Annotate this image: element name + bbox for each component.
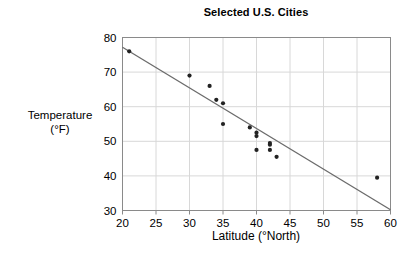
data-point	[268, 143, 272, 147]
y-tick-label: 40	[104, 170, 117, 182]
data-point	[127, 49, 131, 53]
data-points	[127, 49, 379, 179]
data-point	[254, 134, 258, 138]
x-tick-label: 25	[150, 217, 163, 229]
data-point	[254, 148, 258, 152]
data-point	[208, 84, 212, 88]
x-tick-label: 30	[183, 217, 196, 229]
y-tick-label: 60	[104, 101, 117, 113]
x-tick-label: 50	[317, 217, 330, 229]
x-tick-marks	[123, 211, 391, 215]
data-point	[187, 73, 191, 77]
y-tick-label: 30	[104, 205, 117, 217]
data-point	[214, 98, 218, 102]
x-tick-label: 20	[116, 217, 129, 229]
x-tick-label: 45	[284, 217, 297, 229]
x-tick-label: 60	[384, 217, 397, 229]
scatter-plot: 202530354045505560 304050607080	[0, 0, 417, 255]
data-point	[221, 122, 225, 126]
gridlines	[123, 38, 391, 211]
data-point	[268, 148, 272, 152]
y-tick-label: 50	[104, 135, 117, 147]
data-point	[275, 155, 279, 159]
chart-figure: Selected U.S. Cities Temperature (°F) La…	[0, 0, 417, 255]
y-tick-label: 80	[104, 32, 117, 44]
data-point	[221, 101, 225, 105]
x-tick-labels: 202530354045505560	[116, 217, 397, 229]
x-tick-label: 35	[217, 217, 230, 229]
data-point	[375, 176, 379, 180]
x-tick-label: 40	[250, 217, 263, 229]
y-tick-label: 70	[104, 66, 117, 78]
x-tick-label: 55	[351, 217, 364, 229]
data-point	[248, 125, 252, 129]
y-tick-labels: 304050607080	[104, 32, 117, 217]
